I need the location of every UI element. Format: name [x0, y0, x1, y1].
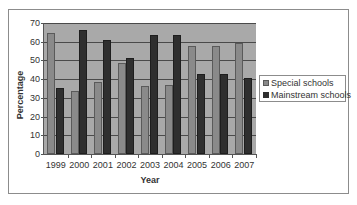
bar-special-1999 — [47, 33, 55, 154]
bar-mainstream-2006 — [220, 74, 228, 154]
y-tick-mark — [41, 135, 44, 136]
x-tick-mark — [115, 155, 116, 158]
bar-special-2005 — [188, 46, 196, 154]
bar-special-2003 — [141, 86, 149, 154]
x-tick-mark — [232, 155, 233, 158]
x-axis-line — [43, 154, 257, 155]
x-tick-label: 2007 — [232, 160, 256, 170]
plot-area — [44, 23, 256, 154]
legend-item-special: Special schools — [263, 78, 334, 89]
x-tick-label: 2006 — [209, 160, 233, 170]
y-tick-mark — [41, 154, 44, 155]
x-tick-mark — [91, 155, 92, 158]
legend-item-mainstream: Mainstream schools — [263, 90, 351, 101]
legend-swatch-mainstream — [263, 92, 269, 98]
bar-mainstream-2002 — [126, 58, 134, 154]
y-tick-label: 50 — [26, 55, 40, 65]
bar-mainstream-2001 — [103, 40, 111, 154]
y-tick-mark — [41, 117, 44, 118]
y-tick-mark — [41, 79, 44, 80]
y-tick-mark — [41, 42, 44, 43]
y-axis-label: Percentage — [15, 60, 25, 130]
y-tick-mark — [41, 23, 44, 24]
y-tick-label: 10 — [26, 130, 40, 140]
y-tick-label: 0 — [26, 149, 40, 159]
y-tick-mark — [41, 98, 44, 99]
y-tick-label: 70 — [26, 18, 40, 28]
bar-special-2006 — [212, 46, 220, 154]
x-tick-label: 2003 — [138, 160, 162, 170]
x-tick-label: 2001 — [91, 160, 115, 170]
x-tick-mark — [138, 155, 139, 158]
y-tick-label: 60 — [26, 37, 40, 47]
x-tick-label: 2000 — [67, 160, 91, 170]
x-tick-label: 2004 — [162, 160, 186, 170]
y-tick-label: 20 — [26, 112, 40, 122]
x-tick-label: 1999 — [44, 160, 68, 170]
bar-mainstream-2007 — [244, 78, 252, 154]
bar-mainstream-2005 — [197, 74, 205, 154]
bar-special-2002 — [118, 63, 126, 154]
bar-special-2007 — [235, 43, 243, 154]
legend-swatch-special — [263, 80, 269, 86]
legend-label-special: Special schools — [271, 78, 334, 88]
bar-mainstream-2003 — [150, 35, 158, 154]
x-axis-label: Year — [130, 175, 170, 185]
bar-mainstream-2004 — [173, 35, 181, 154]
bar-special-2004 — [165, 85, 173, 154]
gridline — [44, 23, 256, 24]
x-tick-mark — [256, 155, 257, 158]
legend-label-mainstream: Mainstream schools — [271, 90, 351, 100]
y-tick-mark — [41, 60, 44, 61]
x-tick-label: 2005 — [185, 160, 209, 170]
x-tick-mark — [209, 155, 210, 158]
bar-special-2001 — [94, 82, 102, 154]
bar-special-2000 — [71, 91, 79, 154]
y-tick-label: 40 — [26, 74, 40, 84]
x-tick-label: 2002 — [114, 160, 138, 170]
y-tick-label: 30 — [26, 93, 40, 103]
x-tick-mark — [68, 155, 69, 158]
x-tick-mark — [162, 155, 163, 158]
bar-mainstream-1999 — [56, 88, 64, 154]
legend: Special schools Mainstream schools — [259, 75, 346, 102]
x-tick-mark — [185, 155, 186, 158]
bar-mainstream-2000 — [79, 30, 87, 154]
